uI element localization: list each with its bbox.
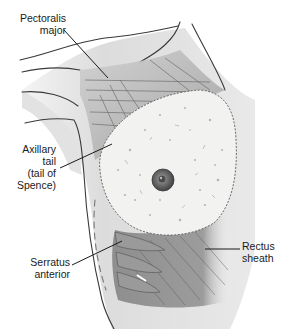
label-serratus-anterior: Serratus anterior xyxy=(14,256,70,280)
anatomy-figure: Pectoralis major Axillary tail (tail of … xyxy=(0,0,289,329)
label-axillary-tail: Axillary tail (tail of Spence) xyxy=(4,143,56,191)
label-rectus-sheath: Rectus sheath xyxy=(242,240,275,264)
nipple xyxy=(152,169,174,191)
label-pectoralis-major: Pectoralis major xyxy=(6,12,66,36)
